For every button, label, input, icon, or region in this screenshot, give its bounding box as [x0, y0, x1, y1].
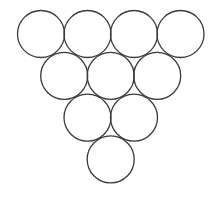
- circle: [134, 52, 181, 99]
- circle-row-4: [87, 136, 134, 183]
- circle: [111, 94, 158, 141]
- circle: [18, 11, 65, 58]
- circle-row-2: [41, 52, 181, 99]
- circle: [41, 52, 88, 99]
- circle: [87, 52, 134, 99]
- circle: [157, 11, 204, 58]
- circle-row-3: [64, 94, 158, 141]
- circle: [64, 11, 111, 58]
- circle: [111, 11, 158, 58]
- circle: [64, 94, 111, 141]
- circle: [87, 136, 134, 183]
- circle-triangle-diagram: [0, 0, 220, 199]
- circle-row-1: [18, 11, 205, 58]
